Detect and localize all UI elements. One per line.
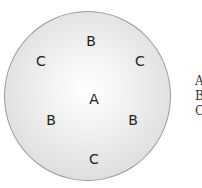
- label-b-lower-left: B: [46, 113, 56, 127]
- label-a-center: A: [89, 92, 99, 106]
- label-c-bottom: C: [89, 152, 99, 166]
- label-c-upper-left: C: [36, 54, 46, 68]
- legend-item-c: C: [195, 105, 202, 117]
- legend-item-a: A: [195, 75, 202, 87]
- label-b-lower-right: B: [128, 113, 138, 127]
- label-c-upper-right: C: [135, 54, 145, 68]
- legend-item-b: B: [195, 90, 202, 102]
- label-b-top: B: [86, 34, 96, 48]
